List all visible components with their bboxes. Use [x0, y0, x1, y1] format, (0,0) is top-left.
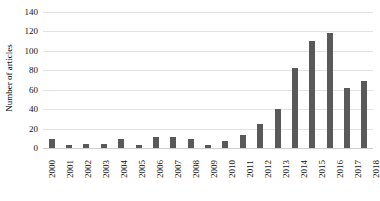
bar-slot [356, 12, 373, 148]
y-tick-label-0: 0 [34, 143, 39, 153]
bar-series [43, 12, 373, 148]
x-label-slot: 2008 [187, 150, 205, 198]
x-tick-label-2015: 2015 [317, 160, 327, 178]
y-tick-label-60: 60 [29, 85, 38, 95]
bar-slot [130, 12, 147, 148]
y-tick-label-40: 40 [29, 104, 38, 114]
x-label-slot: 2013 [277, 150, 295, 198]
bar-slot [234, 12, 251, 148]
x-tick-label-2012: 2012 [263, 160, 273, 178]
x-tick-label-2004: 2004 [119, 160, 129, 178]
bar-2000[interactable] [49, 139, 55, 148]
bar-2002[interactable] [83, 144, 89, 148]
x-label-slot: 2002 [79, 150, 97, 198]
bar-chart: Number of articles 140120100806040200 20… [0, 0, 380, 201]
x-label-slot: 2015 [313, 150, 331, 198]
bar-2007[interactable] [170, 137, 176, 148]
x-label-slot: 2017 [349, 150, 367, 198]
x-tick-label-2000: 2000 [47, 160, 57, 178]
bar-2006[interactable] [153, 137, 159, 148]
bar-slot [165, 12, 182, 148]
bar-2001[interactable] [66, 145, 72, 148]
x-label-slot: 2016 [331, 150, 349, 198]
y-tick-label-140: 140 [25, 7, 39, 17]
bar-slot [147, 12, 164, 148]
bar-2018[interactable] [361, 81, 367, 148]
y-tick-label-100: 100 [25, 46, 39, 56]
bar-slot [182, 12, 199, 148]
y-axis-tick-labels: 140120100806040200 [0, 0, 41, 148]
bar-slot [199, 12, 216, 148]
bar-2012[interactable] [257, 124, 263, 148]
bar-slot [304, 12, 321, 148]
bar-slot [78, 12, 95, 148]
x-label-slot: 2005 [133, 150, 151, 198]
x-tick-label-2016: 2016 [335, 160, 345, 178]
x-tick-label-2002: 2002 [83, 160, 93, 178]
bar-2015[interactable] [309, 41, 315, 148]
x-tick-label-2003: 2003 [101, 160, 111, 178]
bar-2008[interactable] [188, 139, 194, 148]
x-tick-label-2017: 2017 [353, 160, 363, 178]
x-label-slot: 2001 [61, 150, 79, 198]
bar-2010[interactable] [222, 141, 228, 148]
bar-2013[interactable] [275, 109, 281, 148]
bar-slot [321, 12, 338, 148]
plot-area [43, 12, 373, 148]
x-label-slot: 2011 [241, 150, 259, 198]
x-label-slot: 2006 [151, 150, 169, 198]
bar-slot [269, 12, 286, 148]
x-label-slot: 2009 [205, 150, 223, 198]
bar-2009[interactable] [205, 145, 211, 148]
x-tick-label-2014: 2014 [299, 160, 309, 178]
bar-2017[interactable] [344, 88, 350, 148]
x-tick-label-2005: 2005 [137, 160, 147, 178]
x-label-slot: 2018 [367, 150, 380, 198]
bar-2005[interactable] [136, 145, 142, 148]
x-label-slot: 2003 [97, 150, 115, 198]
x-tick-label-2018: 2018 [371, 160, 380, 178]
x-tick-label-2001: 2001 [65, 160, 75, 178]
bar-2004[interactable] [118, 139, 124, 148]
bar-slot [286, 12, 303, 148]
x-label-slot: 2000 [43, 150, 61, 198]
bar-2016[interactable] [327, 33, 333, 148]
x-label-slot: 2012 [259, 150, 277, 198]
x-tick-label-2013: 2013 [281, 160, 291, 178]
bar-slot [43, 12, 60, 148]
bar-slot [113, 12, 130, 148]
bar-slot [338, 12, 355, 148]
x-tick-label-2009: 2009 [209, 160, 219, 178]
x-label-slot: 2007 [169, 150, 187, 198]
x-axis-tick-labels: 2000200120022003200420052006200720082009… [43, 150, 373, 198]
x-label-slot: 2010 [223, 150, 241, 198]
x-tick-label-2011: 2011 [245, 160, 255, 178]
x-tick-label-2006: 2006 [155, 160, 165, 178]
bar-slot [217, 12, 234, 148]
bar-2003[interactable] [101, 144, 107, 148]
bar-2014[interactable] [292, 68, 298, 148]
x-label-slot: 2014 [295, 150, 313, 198]
bar-slot [252, 12, 269, 148]
x-tick-label-2007: 2007 [173, 160, 183, 178]
y-tick-label-20: 20 [29, 124, 38, 134]
x-tick-label-2010: 2010 [227, 160, 237, 178]
gridline-0 [43, 148, 373, 149]
x-tick-label-2008: 2008 [191, 160, 201, 178]
bar-slot [60, 12, 77, 148]
y-tick-label-80: 80 [29, 65, 38, 75]
bar-slot [95, 12, 112, 148]
x-label-slot: 2004 [115, 150, 133, 198]
bar-2011[interactable] [240, 135, 246, 148]
y-tick-label-120: 120 [25, 26, 39, 36]
